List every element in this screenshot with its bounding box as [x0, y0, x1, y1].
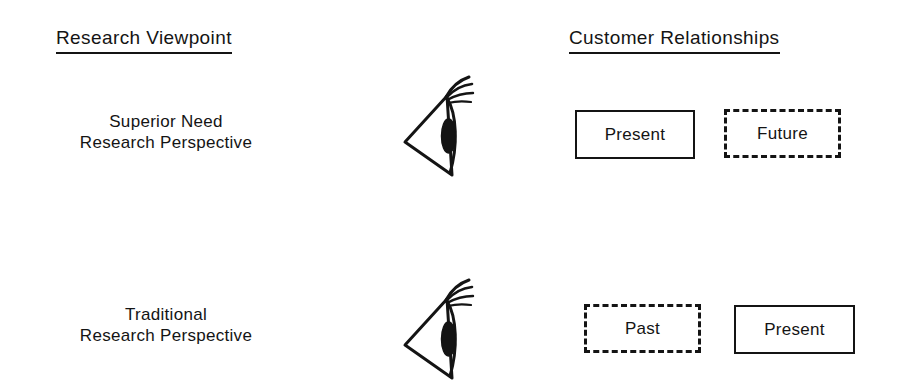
- relationship-box-present-bottom[interactable]: Present: [734, 305, 855, 354]
- diagram-canvas: Research Viewpoint Customer Relationship…: [0, 0, 897, 390]
- row-label-line-2: Research Perspective: [1, 132, 331, 153]
- column-heading-customer-relationships: Customer Relationships: [569, 27, 780, 54]
- row-label-line-2: Research Perspective: [1, 325, 331, 346]
- relationship-box-past[interactable]: Past: [584, 304, 701, 353]
- eye-icon: [400, 74, 476, 180]
- row-label-line-1: Superior Need: [1, 111, 331, 132]
- row-label-line-1: Traditional: [1, 304, 331, 325]
- row-label-traditional: Traditional Research Perspective: [1, 304, 331, 346]
- row-label-superior-need: Superior Need Research Perspective: [1, 111, 331, 153]
- column-heading-research-viewpoint: Research Viewpoint: [56, 27, 232, 54]
- relationship-box-future[interactable]: Future: [724, 109, 841, 158]
- relationship-box-present-top[interactable]: Present: [575, 110, 695, 159]
- eye-icon: [400, 277, 476, 383]
